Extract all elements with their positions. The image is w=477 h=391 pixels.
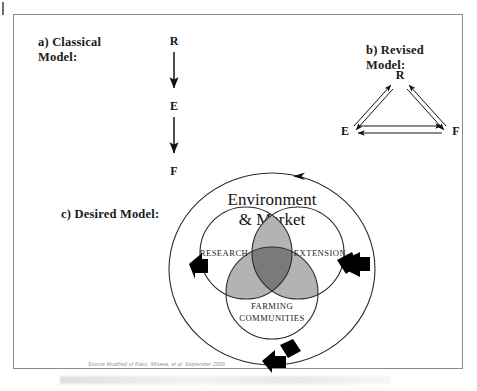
panel-b-node-F: F [452,124,459,138]
scan-corner-tick [2,2,4,15]
panel-b-arrow-R-F [407,85,446,130]
panel-a-node-E: E [170,99,178,113]
panel-c-title: c) Desired Model: [61,207,159,222]
panel-b-node-E: E [341,124,349,138]
figure-frame: a) Classical Model: R E F b) Revised Mod… [13,14,463,369]
panel-b-arrow-E-R [354,85,393,130]
environment-market-line1: Environment [228,190,317,209]
panel-b-arrow-E-F [358,126,442,133]
panel-b-node-R: R [396,68,405,82]
cycle-direction-arrowhead [293,173,305,180]
venn-label-farming-line2: COMMUNITIES [239,313,305,323]
source-note: Source Modified of Kiaro, Mtseea, et.al.… [88,362,225,367]
venn-label-research: RESEARCH [200,248,249,258]
venn-label-extension: EXTENSION [294,248,347,258]
panel-a-node-R: R [170,34,179,48]
figure-page: a) Classical Model: R E F b) Revised Mod… [0,0,477,391]
venn-label-farming-line1: FARMING [251,301,293,311]
panel-c-diagram: Environment & Market RESEARCH EXTENSION … [162,161,382,373]
cycle-arrow-bottom [262,339,301,373]
panel-b-diagram: R E F [336,63,464,145]
cut-off-caption-strip [60,376,390,384]
